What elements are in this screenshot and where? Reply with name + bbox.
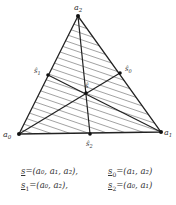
formula-s1: s1=(a₀, a₂),	[21, 180, 68, 192]
barycenter-s1-dot	[46, 73, 50, 77]
vertex-a0-label: a0	[3, 130, 12, 140]
barycenter-s-label: ŝ	[85, 82, 89, 90]
vertex-a2-dot	[76, 14, 80, 18]
vertex-a1-label: a1	[164, 128, 172, 138]
barycenter-s2-label: ŝ2	[86, 140, 93, 149]
formula-s: s=(a₀, a₁, a₂),	[21, 166, 78, 178]
vertex-a2-label: a2	[74, 3, 83, 13]
barycenter-s0-dot	[118, 71, 122, 75]
formula-s0: s0=(a₁, a₂)	[108, 166, 152, 178]
vertex-a0-dot	[17, 132, 21, 136]
barycenter-s0-label: ŝ0	[125, 65, 133, 74]
barycenter-s2-dot	[88, 132, 92, 136]
simplex-diagram: a2 a0 a1 ŝ1 ŝ0 ŝ ŝ2	[0, 0, 176, 150]
median-a2-s2	[78, 16, 90, 134]
vertex-a1-dot	[159, 130, 163, 134]
barycenter-s-dot	[84, 91, 88, 95]
formula-s2: s2=(a₀, a₁)	[108, 180, 152, 192]
median-a1-s1	[48, 75, 161, 132]
hatching	[0, 0, 176, 150]
barycenter-s1-label: ŝ1	[34, 67, 41, 76]
